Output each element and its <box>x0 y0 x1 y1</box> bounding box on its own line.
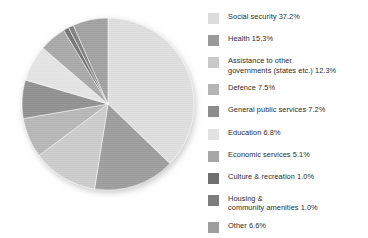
legend-item-label: Health 15.3% <box>228 34 273 43</box>
legend-item[interactable]: Education 6.8% <box>208 128 281 140</box>
legend-item-label: General public services 7.2% <box>228 105 325 114</box>
legend-item-label: Social security 37.2% <box>228 12 300 21</box>
legend-item-label: Culture & recreation 1.0% <box>228 172 314 181</box>
legend-item[interactable]: Assistance to other governments (states … <box>208 56 336 74</box>
pie-chart-figure: Social security 37.2%Health 15.3%Assista… <box>0 0 368 238</box>
legend-color-swatch <box>208 84 219 95</box>
legend-item[interactable]: General public services 7.2% <box>208 105 325 117</box>
legend-item[interactable]: Economic services 5.1% <box>208 150 310 162</box>
legend-item[interactable]: Health 15.3% <box>208 34 273 46</box>
legend-color-swatch <box>208 151 219 162</box>
pie-svg <box>16 12 202 198</box>
pie-chart-graphic <box>16 12 202 198</box>
legend-color-swatch <box>208 173 219 184</box>
legend-color-swatch <box>208 129 219 140</box>
legend-color-swatch <box>208 35 219 46</box>
legend-item[interactable]: Social security 37.2% <box>208 12 300 24</box>
legend: Social security 37.2%Health 15.3%Assista… <box>208 12 368 230</box>
legend-color-swatch <box>208 57 219 68</box>
legend-item-label: Economic services 5.1% <box>228 150 310 159</box>
pie-texture-overlay <box>22 18 194 190</box>
legend-item[interactable]: Housing & community amenities 1.0% <box>208 194 318 212</box>
legend-item-label: Housing & community amenities 1.0% <box>228 194 318 212</box>
legend-item-label: Education 6.8% <box>228 128 281 137</box>
legend-item-label: Other 6.6% <box>228 221 266 230</box>
legend-color-swatch <box>208 13 219 24</box>
legend-color-swatch <box>208 222 219 233</box>
legend-item[interactable]: Culture & recreation 1.0% <box>208 172 314 184</box>
legend-color-swatch <box>208 195 219 206</box>
legend-item[interactable]: Defence 7.5% <box>208 83 275 95</box>
legend-item-label: Defence 7.5% <box>228 83 275 92</box>
legend-color-swatch <box>208 106 219 117</box>
legend-item[interactable]: Other 6.6% <box>208 221 266 233</box>
legend-item-label: Assistance to other governments (states … <box>228 56 336 74</box>
